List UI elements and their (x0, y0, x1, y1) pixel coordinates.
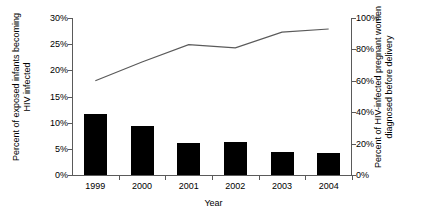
right-axis-tick-80%: 80% (356, 45, 390, 54)
x-tick-mark (259, 176, 260, 180)
x-axis-tick-1999: 1999 (72, 181, 118, 191)
x-tick-mark (119, 176, 120, 180)
right-axis-tick-40%: 40% (356, 108, 390, 117)
x-axis-tick-2003: 2003 (259, 181, 305, 191)
right-tick-mark (352, 18, 356, 19)
chart-figure: Percent of exposed infants becoming HIV … (0, 0, 427, 218)
right-tick-mark (352, 144, 356, 145)
right-axis-tick-20%: 20% (356, 140, 390, 149)
x-axis-tick-2002: 2002 (212, 181, 258, 191)
line-series (72, 18, 352, 176)
left-axis-tick-10%: 10% (36, 119, 68, 128)
x-tick-mark (305, 176, 306, 180)
plot-area (72, 18, 352, 176)
x-tick-mark (352, 176, 353, 180)
x-axis-tick-2004: 2004 (306, 181, 352, 191)
left-axis-tick-20%: 20% (36, 66, 68, 75)
right-axis-tick-60%: 60% (356, 77, 390, 86)
left-axis-tick-5%: 5% (36, 145, 68, 154)
x-axis-title: Year (0, 198, 427, 208)
x-tick-mark (165, 176, 166, 180)
right-tick-mark (352, 81, 356, 82)
left-axis-title: Percent of exposed infants becoming HIV … (11, 0, 33, 175)
right-axis-tick-100%: 100% (356, 14, 390, 23)
left-axis-tick-25%: 25% (36, 40, 68, 49)
x-axis-tick-2000: 2000 (119, 181, 165, 191)
x-axis-tick-2001: 2001 (166, 181, 212, 191)
right-tick-mark (352, 112, 356, 113)
right-axis-tick-0%: 0% (356, 171, 390, 180)
right-tick-mark (352, 49, 356, 50)
left-axis-tick-30%: 30% (36, 14, 68, 23)
left-axis-tick-0%: 0% (36, 171, 68, 180)
line-series-path (95, 29, 328, 81)
left-axis-tick-15%: 15% (36, 93, 68, 102)
x-tick-mark (212, 176, 213, 180)
